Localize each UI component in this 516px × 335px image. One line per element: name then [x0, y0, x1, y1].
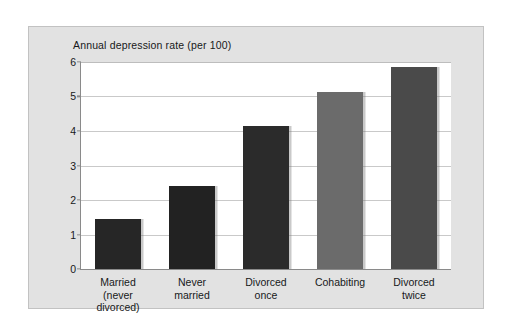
y-axis-tick-label: 5 [70, 90, 76, 102]
bar-slot: Never married [155, 62, 229, 269]
bar: Divorced once [243, 126, 289, 269]
bar: Cohabiting [317, 92, 363, 269]
bar-slot: Divorced once [229, 62, 303, 269]
y-axis-tick-label: 0 [70, 263, 76, 275]
figure-panel: Annual depression rate (per 100) 0123456… [28, 26, 484, 309]
y-axis-tick-label: 6 [70, 56, 76, 68]
x-axis-category-label: Married (never divorced) [96, 276, 139, 314]
plot-area: 0123456 Married (never divorced)Never ma… [80, 62, 451, 270]
bar: Never married [169, 186, 215, 269]
bar: Married (never divorced) [95, 219, 141, 269]
chart-title: Annual depression rate (per 100) [73, 39, 231, 51]
x-axis-category-label: Never married [174, 276, 210, 301]
x-axis-category-label: Divorced twice [393, 276, 434, 301]
y-axis-tick-label: 3 [70, 160, 76, 172]
x-axis-category-label: Cohabiting [315, 276, 365, 289]
x-axis-category-label: Divorced once [245, 276, 286, 301]
y-axis-tick-label: 1 [70, 229, 76, 241]
bar-slot: Cohabiting [303, 62, 377, 269]
bar: Divorced twice [391, 67, 437, 269]
y-axis-tick-label: 2 [70, 194, 76, 206]
bar-slot: Divorced twice [377, 62, 451, 269]
bars-container: Married (never divorced)Never marriedDiv… [81, 62, 451, 269]
y-axis-tick-label: 4 [70, 125, 76, 137]
bar-slot: Married (never divorced) [81, 62, 155, 269]
